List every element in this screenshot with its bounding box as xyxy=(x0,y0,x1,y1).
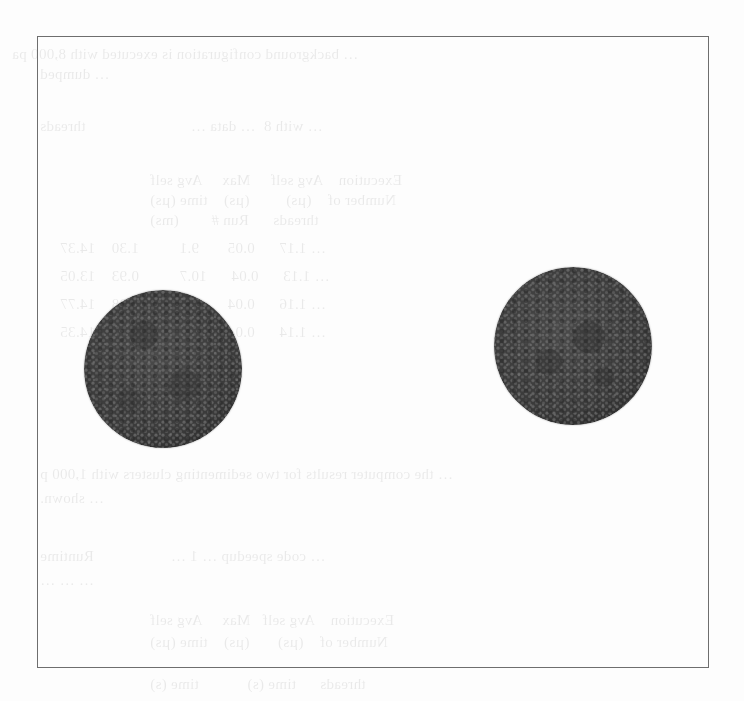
scanned-page: … background configuration is executed w… xyxy=(0,0,744,701)
particle-texture xyxy=(84,290,242,448)
bleed-through-line: threads time (s) time (s) xyxy=(150,676,406,693)
right-particle-cluster-sphere xyxy=(494,267,652,425)
left-particle-cluster-sphere xyxy=(84,290,242,448)
particle-texture xyxy=(494,267,652,425)
